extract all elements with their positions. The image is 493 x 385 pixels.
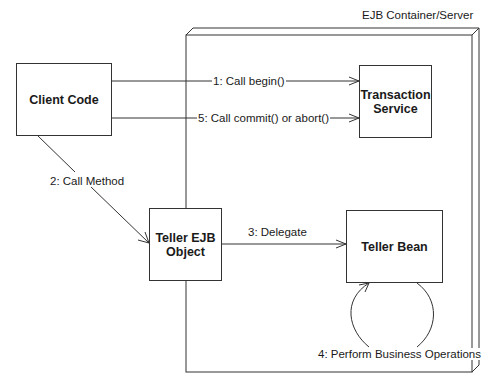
- node-teller-bean[interactable]: Teller Bean: [346, 210, 443, 283]
- message-2-label: 2: Call Method: [50, 175, 124, 187]
- message-4-loop: [351, 283, 434, 347]
- message-1-label: 1: Call begin(): [212, 75, 286, 87]
- node-client-code[interactable]: Client Code: [16, 63, 112, 136]
- message-2-arrow: [37, 135, 149, 243]
- node-transaction-service-label: Transaction Service: [360, 88, 430, 116]
- message-4-label: 4: Perform Business Operations: [317, 348, 482, 360]
- message-3-label: 3: Delegate: [248, 226, 307, 238]
- node-transaction-service[interactable]: Transaction Service: [359, 65, 432, 138]
- node-teller-ejb-object[interactable]: Teller EJB Object: [149, 208, 222, 281]
- message-5-label: 5: Call commit() or abort(): [197, 112, 330, 124]
- node-teller-bean-label: Teller Bean: [361, 240, 427, 254]
- message-3-arrow: [221, 240, 346, 248]
- diagram-canvas: [0, 0, 493, 385]
- node-teller-ejb-object-label: Teller EJB Object: [154, 231, 217, 259]
- node-client-code-label: Client Code: [29, 93, 98, 107]
- container-label: EJB Container/Server: [362, 9, 473, 21]
